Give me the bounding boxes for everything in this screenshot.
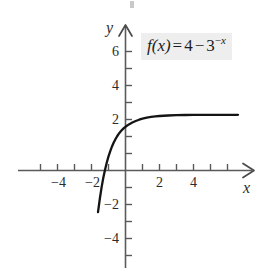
- y-tick-label-2: 2: [112, 113, 119, 127]
- y-tick-label-minus4: −4: [104, 232, 119, 246]
- y-tick-label-6: 6: [112, 45, 119, 59]
- y-tick-label-minus2: −2: [104, 198, 119, 212]
- x-tick-label-2: 2: [156, 176, 163, 190]
- equation-constant: 4: [184, 36, 193, 55]
- y-axis-ticks: [126, 52, 133, 256]
- graph-canvas: [0, 0, 274, 272]
- x-tick-label-minus4: −4: [51, 176, 66, 190]
- x-axis-ticks: [41, 164, 228, 171]
- y-axis-label: y: [106, 20, 113, 36]
- equation-equals: =: [171, 36, 185, 55]
- equation-function-name: f(x): [147, 36, 171, 55]
- function-curve: [98, 115, 238, 212]
- equation-exponent-variable: x: [221, 34, 226, 46]
- x-tick-label-4: 4: [190, 176, 197, 190]
- x-axis-label: x: [243, 180, 250, 196]
- equation-annotation: f(x)=4−3−x: [141, 33, 232, 60]
- equation-operator: −: [193, 36, 207, 55]
- equation-exponent: −x: [215, 34, 226, 46]
- graph-figure: −4 −2 2 4 6 4 2 −2 −4 y x f(x)=4−3−x: [0, 0, 274, 272]
- equation-base: 3: [206, 36, 215, 55]
- y-tick-label-4: 4: [112, 79, 119, 93]
- x-tick-label-minus2: −2: [85, 176, 100, 190]
